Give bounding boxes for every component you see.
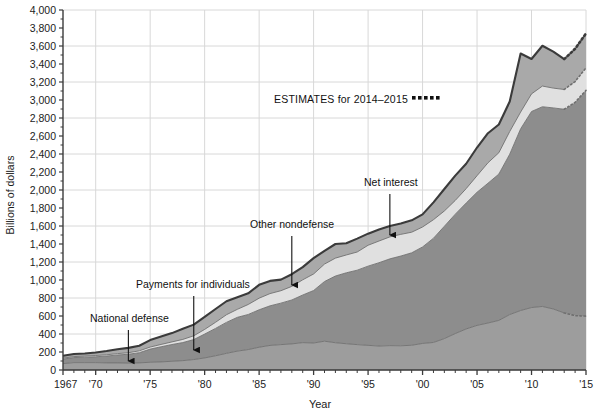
annotation-label-national-defense: National defense: [90, 312, 169, 324]
x-tick-label: '95: [361, 378, 375, 390]
y-tick-label: 3,800: [30, 22, 56, 34]
chart-container: 02004006008001,0001,2001,4001,6001,8002,…: [0, 0, 596, 418]
y-tick-label: 3,200: [30, 76, 56, 88]
y-tick-label: 2,800: [30, 112, 56, 124]
x-tick-label: '75: [143, 378, 157, 390]
x-tick-label: '90: [307, 378, 321, 390]
x-tick-label: '10: [525, 378, 539, 390]
y-tick-label: 2,600: [30, 130, 56, 142]
x-tick-label: '15: [579, 378, 593, 390]
y-tick-label: 3,600: [30, 40, 56, 52]
x-tick-label: '85: [252, 378, 266, 390]
y-tick-label: 4,000: [30, 4, 56, 16]
x-tick-label: '70: [89, 378, 103, 390]
annotation-label-net-interest: Net interest: [364, 176, 418, 188]
estimates-dot: [436, 96, 440, 100]
x-tick-label: '05: [470, 378, 484, 390]
x-tick-label: '00: [416, 378, 430, 390]
annotation-label-other-nondefense: Other nondefense: [250, 218, 334, 230]
y-tick-label: 1,000: [30, 274, 56, 286]
y-tick-label: 0: [50, 364, 56, 376]
y-tick-label: 1,800: [30, 202, 56, 214]
y-tick-label: 3,400: [30, 58, 56, 70]
y-tick-label: 1,600: [30, 220, 56, 232]
annotation-label-payments-for-individuals: Payments for individuals: [136, 278, 250, 290]
estimates-note-label: ESTIMATES for 2014–2015: [274, 93, 408, 105]
y-tick-label: 800: [38, 292, 56, 304]
y-tick-label: 200: [38, 346, 56, 358]
x-axis-label: Year: [309, 398, 332, 410]
y-tick-label: 2,200: [30, 166, 56, 178]
y-tick-label: 2,000: [30, 184, 56, 196]
y-tick-label: 600: [38, 310, 56, 322]
estimates-dot: [430, 96, 434, 100]
estimates-dot: [418, 96, 422, 100]
y-tick-label: 1,400: [30, 238, 56, 250]
y-tick-label: 3,000: [30, 94, 56, 106]
x-tick-label: '80: [198, 378, 212, 390]
estimates-dot: [412, 96, 416, 100]
y-axis-label: Billions of dollars: [4, 156, 16, 235]
federal-outlays-stacked-area-chart: 02004006008001,0001,2001,4001,6001,8002,…: [0, 0, 596, 418]
x-tick-label: 1967: [54, 378, 78, 390]
y-tick-label: 400: [38, 328, 56, 340]
y-tick-label: 2,400: [30, 148, 56, 160]
y-tick-label: 1,200: [30, 256, 56, 268]
estimates-dot: [424, 96, 428, 100]
